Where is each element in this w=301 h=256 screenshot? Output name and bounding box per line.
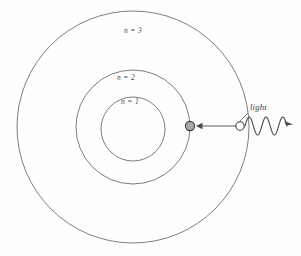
light-label: light xyxy=(250,102,267,112)
electron-marker xyxy=(185,121,194,130)
orbit-circle-n3 xyxy=(17,11,249,243)
light-wave-path xyxy=(245,117,287,135)
diagram-canvas: n = 3 n = 2 n = 1 light xyxy=(0,0,301,256)
bohr-model-figure: n = 3 n = 2 n = 1 light xyxy=(0,0,301,256)
orbit-label-n1: n = 1 xyxy=(121,97,139,106)
photon-marker xyxy=(236,122,244,130)
orbit-label-n2: n = 2 xyxy=(117,73,135,82)
orbit-circle-n2 xyxy=(76,70,190,184)
transition-arrow-head xyxy=(196,123,203,129)
light-wave-arrow-head xyxy=(285,121,294,126)
orbit-circle-n1 xyxy=(101,97,165,161)
orbit-label-n3: n = 3 xyxy=(124,26,142,35)
